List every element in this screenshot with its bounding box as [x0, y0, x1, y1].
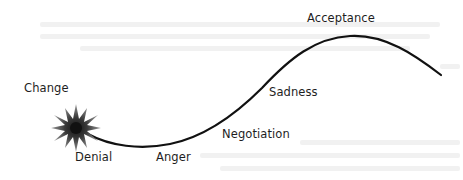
- stage-label-sadness: Sadness: [269, 85, 318, 99]
- change-curve-diagram: Change Denial Anger Negotiation Sadness …: [0, 0, 463, 180]
- stage-label-negotiation: Negotiation: [222, 127, 290, 141]
- starburst-icon: [51, 104, 101, 152]
- stage-label-acceptance: Acceptance: [307, 11, 375, 25]
- change-curve-line: [0, 0, 463, 180]
- stage-label-change: Change: [24, 81, 69, 95]
- stage-label-anger: Anger: [156, 150, 191, 164]
- stage-label-denial: Denial: [75, 150, 112, 164]
